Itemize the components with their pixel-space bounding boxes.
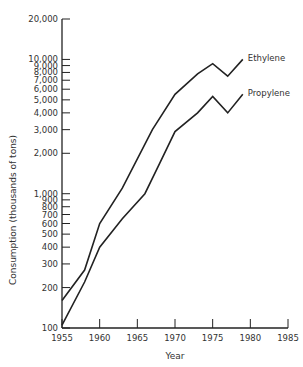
x-tick-label: 1985 bbox=[277, 333, 299, 343]
x-tick-label: 1965 bbox=[127, 333, 149, 343]
y-tick-label: 400 bbox=[42, 242, 58, 252]
y-tick-label: 3,000 bbox=[34, 125, 58, 135]
y-tick-label: 300 bbox=[42, 259, 58, 269]
x-tick-label: 1975 bbox=[202, 333, 224, 343]
x-tick-label: 1980 bbox=[240, 333, 262, 343]
y-tick-label: 200 bbox=[42, 283, 58, 293]
chart-container: 1002003004005006007008009001,0002,0003,0… bbox=[0, 0, 303, 367]
x-axis-label: Year bbox=[164, 351, 184, 361]
series-group: EthylenePropylene bbox=[62, 53, 290, 325]
y-tick-label: 1,000 bbox=[34, 189, 58, 199]
y-tick-label: 100 bbox=[42, 323, 58, 333]
y-tick-label: 6,000 bbox=[34, 84, 58, 94]
y-axis: 1002003004005006007008009001,0002,0003,0… bbox=[28, 14, 70, 333]
y-tick-label: 4,000 bbox=[34, 108, 58, 118]
y-tick-label: 2,000 bbox=[34, 148, 58, 158]
y-tick-label: 10,000 bbox=[28, 54, 58, 64]
x-tick-label: 1970 bbox=[164, 333, 186, 343]
consumption-line-chart: 1002003004005006007008009001,0002,0003,0… bbox=[0, 0, 303, 367]
y-axis-label: Consumption (thousands of tons) bbox=[8, 135, 18, 285]
propylene-label: Propylene bbox=[248, 88, 290, 98]
y-tick-label: 20,000 bbox=[28, 14, 58, 24]
x-tick-label: 1955 bbox=[51, 333, 73, 343]
y-tick-label: 5,000 bbox=[34, 95, 58, 105]
x-tick-label: 1960 bbox=[89, 333, 111, 343]
y-tick-label: 500 bbox=[42, 229, 58, 239]
y-tick-label: 600 bbox=[42, 219, 58, 229]
ethylene-label: Ethylene bbox=[248, 53, 285, 63]
x-axis: 1955196019651970197519801985 bbox=[51, 319, 299, 343]
